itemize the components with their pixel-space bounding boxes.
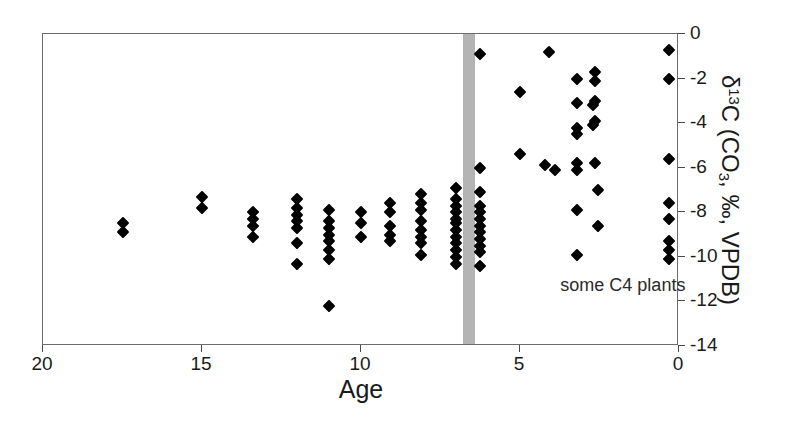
y-axis-tick-label: -6 — [690, 156, 707, 178]
data-point — [588, 74, 601, 87]
data-point — [474, 48, 487, 61]
data-point — [592, 219, 605, 232]
y-axis-tick — [678, 78, 685, 79]
y-axis-tick — [678, 345, 685, 346]
x-axis-tick — [519, 345, 520, 352]
y-axis-tick — [678, 300, 685, 301]
x-axis-title: Age — [339, 375, 383, 404]
highlight-band — [463, 34, 475, 344]
data-point — [291, 237, 304, 250]
data-point — [291, 257, 304, 270]
data-point — [592, 184, 605, 197]
data-point — [571, 248, 584, 261]
y-axis-tick-label: -14 — [690, 334, 717, 356]
y-axis-tick-label: -4 — [690, 111, 707, 133]
y-axis-tick-label: 0 — [690, 22, 701, 44]
y-axis-tick-label: -8 — [690, 200, 707, 222]
data-point — [415, 248, 428, 261]
data-point — [542, 45, 555, 58]
y-axis-tick — [678, 33, 685, 34]
y-axis-tick-label: -10 — [690, 245, 717, 267]
data-point — [323, 253, 336, 266]
x-axis-tick-label: 0 — [673, 353, 684, 375]
data-point — [571, 72, 584, 85]
scatter-chart-figure: 20151050 0-2-4-6-8-10-12-14 Age δ13C (CO… — [0, 0, 786, 425]
y-axis-title-suffix: , ‰, VPDB) — [717, 181, 744, 305]
data-point — [663, 197, 676, 210]
data-point — [663, 253, 676, 266]
y-axis-tick — [678, 122, 685, 123]
data-point — [588, 157, 601, 170]
data-point — [514, 148, 527, 161]
data-point — [415, 237, 428, 250]
data-point — [116, 226, 129, 239]
annotation-some-c4-plants: some C4 plants — [560, 275, 685, 296]
data-point — [663, 213, 676, 226]
y-axis-title-superscript: 13 — [726, 88, 742, 105]
data-point — [474, 186, 487, 199]
data-point — [474, 259, 487, 272]
y-axis-title-mid: C (CO — [717, 105, 744, 173]
data-point — [247, 230, 260, 243]
y-axis-tick-label: -2 — [690, 67, 707, 89]
y-axis-tick — [678, 167, 685, 168]
x-axis-tick-label: 15 — [190, 353, 211, 375]
data-point — [383, 206, 396, 219]
data-point — [474, 246, 487, 259]
data-point — [323, 300, 336, 313]
y-axis-tick-label: -12 — [690, 289, 717, 311]
y-axis-title: δ13C (CO3, ‰, VPDB) — [716, 75, 745, 305]
x-axis-tick — [42, 345, 43, 352]
x-axis-tick — [201, 345, 202, 352]
data-point — [663, 152, 676, 165]
x-axis-tick-label: 10 — [349, 353, 370, 375]
data-point — [474, 161, 487, 174]
data-point — [571, 97, 584, 110]
x-axis-tick — [360, 345, 361, 352]
x-axis-tick-label: 5 — [514, 353, 525, 375]
data-point — [355, 230, 368, 243]
y-axis-tick — [678, 256, 685, 257]
plot-area — [42, 33, 678, 345]
data-point — [196, 201, 209, 214]
data-point — [663, 72, 676, 85]
data-point — [571, 204, 584, 217]
y-axis-title-prefix: δ — [717, 75, 744, 88]
data-point — [514, 86, 527, 99]
x-axis-tick-label: 20 — [31, 353, 52, 375]
y-axis-title-subscript: 3 — [716, 173, 732, 181]
y-axis-tick — [678, 211, 685, 212]
data-point — [663, 43, 676, 56]
data-point — [355, 217, 368, 230]
x-axis-tick — [678, 345, 679, 352]
